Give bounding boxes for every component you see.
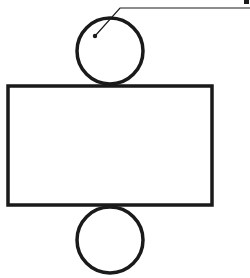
cylinder-net-diagram [0, 0, 250, 278]
clipped-label-mark [244, 0, 249, 4]
center-point-dot [93, 34, 97, 38]
